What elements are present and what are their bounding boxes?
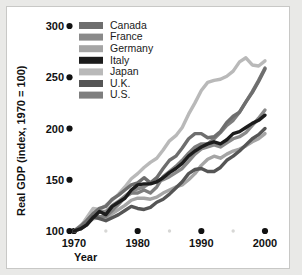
legend-label-germany: Germany [110, 42, 154, 54]
legend-swatch-u-k [79, 80, 103, 87]
legend-swatch-france [79, 34, 103, 41]
y-tick-label: 250 [46, 71, 64, 83]
y-tick-label: 150 [46, 174, 64, 186]
y-tick-label: 200 [46, 123, 64, 135]
y-tick-dot [66, 177, 72, 183]
y-axis-tick-labels: 100150200250300 [46, 20, 64, 237]
y-tick-dot [66, 23, 72, 29]
x-tick-dot [262, 228, 268, 234]
chart-canvas: 100150200250300 1970198019902000 Real GD… [0, 0, 302, 275]
legend-swatch-germany [79, 45, 103, 52]
x-tick-label: 2000 [253, 237, 277, 249]
x-tick-label: 1980 [125, 237, 149, 249]
x-tick-dot [135, 228, 141, 234]
x-axis-title: Year [74, 251, 98, 263]
legend-swatch-japan [79, 68, 103, 75]
legend-label-japan: Japan [110, 65, 139, 77]
x-tick-dot [198, 228, 204, 234]
legend-label-canada: Canada [110, 19, 147, 31]
series-line-italy [74, 115, 265, 231]
y-tick-label: 300 [46, 20, 64, 32]
y-tick-dot [66, 125, 72, 131]
chart-legend: CanadaFranceGermanyItalyJapanU.K.U.S. [79, 19, 154, 101]
legend-swatch-u-s [79, 92, 103, 99]
legend-label-u-s: U.S. [110, 88, 130, 100]
x-axis-minor-tick-dots [104, 229, 235, 232]
y-tick-dot [66, 74, 72, 80]
legend-label-u-k: U.K. [110, 77, 130, 89]
x-tick-label: 1970 [62, 237, 86, 249]
x-minor-tick-dot [104, 229, 107, 232]
legend-label-italy: Italy [110, 54, 130, 66]
chart-figure: 100150200250300 1970198019902000 Real GD… [0, 0, 302, 275]
y-axis-tick-dots [66, 23, 72, 234]
legend-swatch-italy [79, 57, 103, 64]
x-axis-tick-labels: 1970198019902000 [62, 237, 277, 249]
x-minor-tick-dot [231, 229, 234, 232]
x-minor-tick-dot [168, 229, 171, 232]
x-tick-label: 1990 [189, 237, 213, 249]
y-axis-title: Real GDP (index, 1970 = 100) [15, 65, 27, 216]
y-tick-label: 100 [46, 225, 64, 237]
legend-label-france: France [110, 30, 143, 42]
legend-swatch-canada [79, 22, 103, 29]
